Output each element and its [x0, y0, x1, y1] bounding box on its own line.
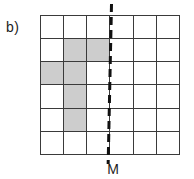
grid-cell-r2-c6: [157, 39, 179, 61]
grid-cell-r3-c4: [110, 62, 132, 84]
grid-cell-r1-c3: [87, 16, 109, 38]
grid-cell-r5-c5: [134, 109, 156, 131]
grid-cell-r3-c5: [134, 62, 156, 84]
grid-cell-r6-c1: [41, 132, 63, 154]
grid-cell-r2-c4: [110, 39, 132, 61]
grid-cell-r4-c1: [41, 85, 63, 107]
grid-cell-r3-c1: [41, 62, 63, 84]
grid-cell-r1-c6: [157, 16, 179, 38]
grid-cell-r4-c4: [110, 85, 132, 107]
grid-cell-r2-c3: [87, 39, 109, 61]
grid-cell-r5-c6: [157, 109, 179, 131]
grid-cell-r4-c3: [87, 85, 109, 107]
mirror-line-label: M: [103, 161, 123, 177]
grid-cell-r4-c2: [64, 85, 86, 107]
grid-cell-r2-c5: [134, 39, 156, 61]
grid-cell-r1-c4: [110, 16, 132, 38]
grid-cell-r4-c5: [134, 85, 156, 107]
grid-cell-r1-c2: [64, 16, 86, 38]
grid-cell-r5-c3: [87, 109, 109, 131]
grid-cell-r4-c6: [157, 85, 179, 107]
grid-cell-r6-c4: [110, 132, 132, 154]
grid-cell-r5-c1: [41, 109, 63, 131]
grid-cell-r3-c3: [87, 62, 109, 84]
grid-cell-r2-c1: [41, 39, 63, 61]
grid-cell-r5-c2: [64, 109, 86, 131]
grid-cell-r3-c6: [157, 62, 179, 84]
figure-label: b): [6, 19, 19, 35]
grid-cell-r1-c5: [134, 16, 156, 38]
grid-cell-r5-c4: [110, 109, 132, 131]
grid-cell-r6-c6: [157, 132, 179, 154]
grid-cell-r6-c2: [64, 132, 86, 154]
grid-cell-r6-c5: [134, 132, 156, 154]
grid-cell-r3-c2: [64, 62, 86, 84]
grid-cell-r1-c1: [41, 16, 63, 38]
figure-b-diagram: b) M: [0, 0, 194, 179]
grid-cell-r2-c2: [64, 39, 86, 61]
